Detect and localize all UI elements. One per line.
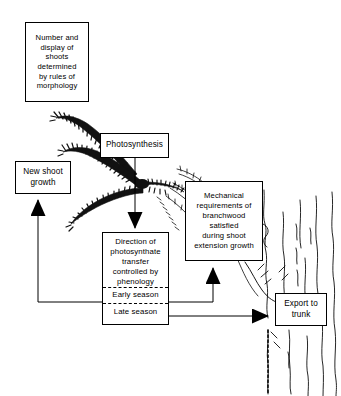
direction-line-5: phenology — [117, 277, 154, 287]
mechanical-line-3: branchwood — [203, 211, 246, 221]
early-season-section[interactable]: Early season — [103, 287, 168, 303]
arrow-early-season-to-mechanical — [169, 268, 213, 302]
photosynthesis-box[interactable]: Photosynthesis — [100, 133, 169, 158]
morphology-line-6: morphology — [37, 81, 78, 91]
morphology-line-1: Number and — [36, 33, 79, 43]
diagram-canvas: Number and display of shoots determined … — [0, 0, 341, 396]
early-season-label: Early season — [112, 290, 158, 300]
mechanical-line-4: satisfied — [209, 221, 238, 231]
direction-of-photosynthate-box[interactable]: Direction of photosynthate transfer cont… — [102, 232, 169, 325]
morphology-line-3: shoots — [46, 52, 69, 62]
new-shoot-line-1: New shoot — [23, 167, 63, 178]
mechanical-line-6: extension growth — [194, 241, 254, 251]
mechanical-line-5: during shoot — [202, 231, 246, 241]
direction-line-3: transfer — [122, 257, 149, 267]
late-season-section[interactable]: Late season — [103, 303, 168, 319]
morphology-line-5: by rules of — [39, 72, 75, 82]
morphology-line-4: determined — [38, 62, 77, 72]
photosynthesis-label: Photosynthesis — [106, 140, 163, 151]
direction-line-2: photosynthate — [110, 247, 160, 257]
export-line-1: Export to — [284, 299, 318, 310]
direction-line-4: controlled by — [113, 267, 159, 277]
mechanical-line-1: Mechanical — [204, 191, 244, 201]
direction-main-section: Direction of photosynthate transfer cont… — [103, 233, 168, 287]
morphology-box[interactable]: Number and display of shoots determined … — [25, 22, 89, 102]
morphology-line-2: display of — [40, 43, 73, 53]
export-line-2: trunk — [292, 310, 311, 321]
late-season-label: Late season — [114, 307, 158, 317]
new-shoot-growth-box[interactable]: New shoot growth — [15, 161, 71, 194]
new-shoot-line-2: growth — [30, 178, 55, 189]
mechanical-line-2: requirements of — [197, 201, 252, 211]
direction-line-1: Direction of — [115, 237, 156, 247]
export-to-trunk-box[interactable]: Export to trunk — [275, 293, 327, 326]
mechanical-requirements-box[interactable]: Mechanical requirements of branchwood sa… — [185, 181, 263, 261]
arrow-early-season-to-new-shoot — [38, 200, 102, 302]
